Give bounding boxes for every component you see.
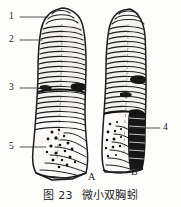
figure-caption: 图 23微小双胸蚓 (0, 188, 181, 203)
specimen-letter-a: A (88, 172, 95, 182)
callout-label-5: 5 (9, 142, 14, 152)
figure-plate: 1 2 3 4 5 A B 图 23微小双胸蚓 (0, 0, 181, 207)
specimen-b-lateral-organ (128, 109, 146, 170)
callout-label-3: 3 (9, 83, 14, 93)
callout-label-4: 4 (163, 123, 168, 133)
specimen-a (33, 8, 88, 180)
callout-label-1: 1 (9, 12, 14, 22)
specimen-letter-b: B (131, 167, 138, 177)
figure-caption-number: 图 23 (43, 189, 73, 202)
callout-label-2: 2 (9, 35, 14, 45)
specimen-illustration (0, 0, 181, 185)
specimen-b (102, 9, 147, 173)
figure-caption-name: 微小双胸蚓 (82, 189, 138, 202)
